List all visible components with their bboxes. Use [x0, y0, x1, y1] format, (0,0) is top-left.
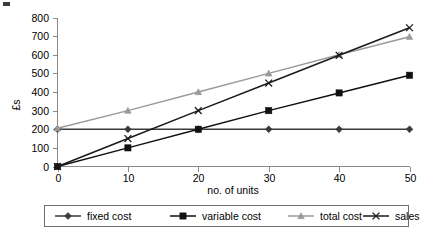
series-fixed-cost [54, 126, 413, 133]
x-axis-title: no. of units [207, 184, 258, 196]
x-tick-label: 0 [56, 172, 62, 184]
y-tick-label: 200 [31, 123, 49, 135]
series-line [58, 28, 410, 167]
legend: fixed costvariable costtotal costsales [55, 210, 420, 222]
data-point-marker [125, 135, 132, 142]
data-point-marker [125, 145, 131, 151]
y-axis-ticks [53, 19, 58, 168]
legend-item-total-cost[interactable]: total cost [288, 210, 362, 222]
series-layer [54, 24, 413, 170]
data-point-marker [406, 24, 413, 31]
legend-label: sales [395, 210, 420, 222]
legend-item-variable-cost[interactable]: variable cost [170, 210, 261, 222]
square-marker [180, 213, 186, 219]
y-tick-label: 700 [31, 30, 49, 42]
data-point-marker [195, 126, 201, 132]
y-tick-label: 100 [31, 142, 49, 154]
legend-item-sales[interactable]: sales [363, 210, 420, 222]
legend-label: fixed cost [87, 210, 131, 222]
series-variable-cost [54, 72, 412, 169]
x-tick-label: 50 [405, 172, 417, 184]
legend-label: total cost [320, 210, 362, 222]
series-sales [54, 24, 413, 170]
legend-item-fixed-cost[interactable]: fixed cost [55, 210, 131, 222]
data-point-marker [265, 126, 272, 133]
data-point-marker [195, 107, 202, 114]
y-tick-label: 0 [43, 161, 49, 173]
data-point-marker [406, 72, 412, 78]
y-axis-title: £s [10, 99, 22, 110]
y-tick-label: 400 [31, 86, 49, 98]
diamond-marker [65, 213, 72, 220]
x-tick-label: 10 [123, 172, 135, 184]
y-tick-label: 800 [31, 12, 49, 24]
scan-artifact [3, 2, 10, 6]
x-axis-tick-labels: 01020304050 [56, 172, 417, 184]
data-point-marker [336, 126, 343, 133]
data-point-marker [406, 33, 413, 39]
y-tick-label: 300 [31, 105, 49, 117]
y-axis-tick-labels: 0100200300400500600700800 [31, 12, 49, 173]
series-line [58, 37, 410, 129]
x-axis-ticks [59, 167, 411, 172]
x-tick-label: 40 [334, 172, 346, 184]
data-point-marker [336, 90, 342, 96]
chart-container: 0100200300400500600700800 01020304050 £s… [0, 0, 424, 237]
series-line [58, 75, 410, 166]
data-point-marker [265, 80, 272, 87]
data-point-marker [266, 108, 272, 114]
x-tick-label: 20 [193, 172, 205, 184]
y-tick-label: 500 [31, 67, 49, 79]
data-point-marker [406, 126, 413, 133]
data-point-marker [125, 126, 132, 133]
y-tick-label: 600 [31, 49, 49, 61]
line-chart: 0100200300400500600700800 01020304050 £s… [0, 0, 424, 237]
legend-label: variable cost [202, 210, 261, 222]
x-tick-label: 30 [264, 172, 276, 184]
